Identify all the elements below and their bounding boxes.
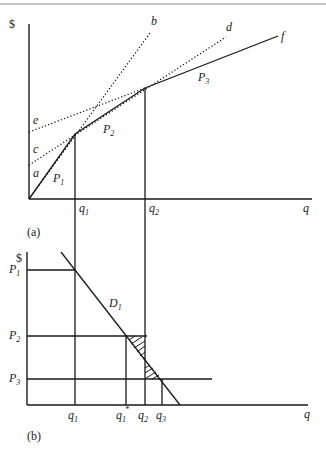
label-f: f xyxy=(281,29,286,43)
segment-label-p1: P1 xyxy=(52,171,64,187)
panel-b-tick-q1: q1 xyxy=(68,408,78,424)
outlay-schedule xyxy=(29,36,278,199)
hatched-surplus-upper xyxy=(129,336,145,359)
label-c: c xyxy=(33,142,39,156)
panel-b-tick-q3: q3 xyxy=(156,408,166,424)
block-pricing-diagram: $ q b d f e c a P1 P2 P3 q1 q2 (a) xyxy=(0,0,326,449)
segment-label-p2: P2 xyxy=(102,122,114,138)
label-d: d xyxy=(226,20,233,34)
label-p3: P3 xyxy=(8,371,20,387)
panel-b-x-label: q xyxy=(304,407,310,421)
label-a: a xyxy=(33,166,39,180)
dotted-line-c-d xyxy=(29,37,226,165)
panel-b-tick-q2: q2 xyxy=(138,408,148,424)
panel-b: $ q P1 P2 P3 D1 q1 q1* q2 q3 (b) xyxy=(8,251,310,443)
hatched-surplus-lower xyxy=(145,365,159,379)
label-p2: P2 xyxy=(8,328,20,344)
label-d1: D1 xyxy=(108,296,122,312)
panel-a-y-label: $ xyxy=(9,17,15,31)
panel-a-x-label: q xyxy=(303,201,309,215)
label-e: e xyxy=(33,113,39,127)
segment-label-p3: P3 xyxy=(197,70,209,86)
panel-b-tick-q1-star: q1* xyxy=(116,405,129,424)
panel-b-y-label: $ xyxy=(16,251,22,265)
panel-a-caption: (a) xyxy=(27,225,40,239)
panel-a: $ q b d f e c a P1 P2 P3 q1 q2 (a) xyxy=(9,14,312,405)
panel-a-tick-q1: q1 xyxy=(79,201,89,217)
panel-b-caption: (b) xyxy=(27,429,41,443)
label-b: b xyxy=(151,14,157,28)
panel-a-tick-q2: q2 xyxy=(149,201,159,217)
